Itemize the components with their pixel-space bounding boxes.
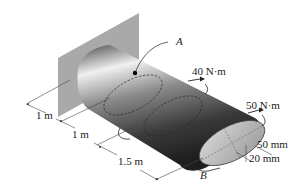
tick-mark — [99, 146, 101, 148]
label-torque-50: 50 N·m — [246, 100, 280, 111]
tick-mark — [156, 178, 158, 180]
shaft-diagram-svg — [0, 0, 301, 196]
label-point-a: A — [176, 36, 183, 47]
label-semi-major: 50 mm — [257, 139, 288, 150]
dimension-line — [94, 143, 117, 155]
dimension-line — [56, 119, 75, 128]
label-point-b: B — [200, 170, 207, 181]
tick-mark — [27, 103, 29, 105]
label-semi-minor: 20 mm — [249, 153, 280, 164]
torque-arrow-40 — [188, 79, 200, 81]
tick-mark — [60, 120, 62, 122]
dimension-line — [140, 170, 158, 180]
label-torque-40: 40 N·m — [192, 66, 226, 77]
label-length-2: 1 m — [72, 129, 89, 140]
arrowhead-icon — [200, 77, 205, 82]
torque-arc-40 — [205, 84, 208, 94]
label-length-3: 1.5 m — [118, 156, 143, 167]
diagram-canvas: A 40 N·m 50 N·m 50 mm 20 mm B 1 m 1 m 1.… — [0, 0, 301, 196]
label-length-1: 1 m — [36, 110, 53, 121]
